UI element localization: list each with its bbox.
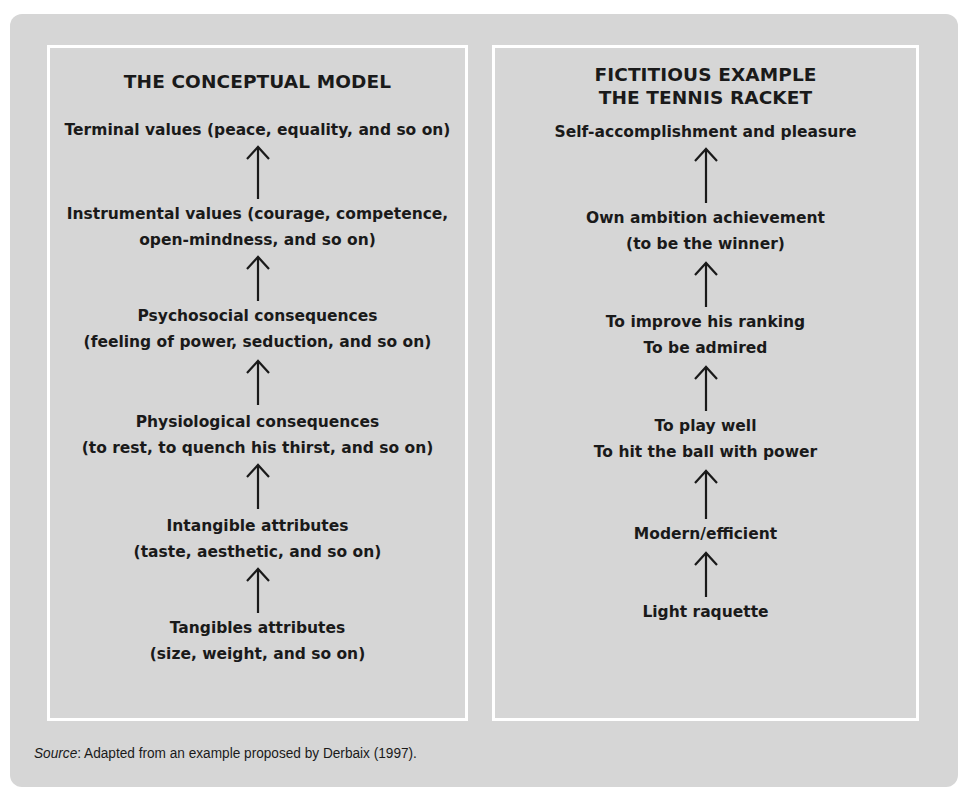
node-instrumental-values: Instrumental values (courage, competence… xyxy=(67,201,449,253)
up-arrow-icon xyxy=(691,361,721,413)
source-text: : Adapted from an example proposed by De… xyxy=(77,744,417,761)
source-label: Source xyxy=(34,744,77,761)
tennis-racket-example-title: FICTITIOUS EXAMPLE THE TENNIS RACKET xyxy=(594,63,816,109)
source-caption: Source: Adapted from an example proposed… xyxy=(34,744,417,762)
conceptual-model-title: THE CONCEPTUAL MODEL xyxy=(124,70,391,93)
up-arrow-icon xyxy=(691,145,721,205)
up-arrow-icon xyxy=(243,461,273,513)
node-self-accomplishment: Self-accomplishment and pleasure xyxy=(555,119,857,145)
figure-panel: THE CONCEPTUAL MODEL Terminal values (pe… xyxy=(10,14,958,787)
tennis-racket-example-box: FICTITIOUS EXAMPLE THE TENNIS RACKET Sel… xyxy=(492,45,919,721)
node-physiological-consequences: Physiological consequences (to rest, to … xyxy=(82,409,434,461)
up-arrow-icon xyxy=(243,253,273,303)
node-modern-efficient: Modern/efficient xyxy=(634,521,777,547)
node-terminal-values: Terminal values (peace, equality, and so… xyxy=(65,117,451,143)
node-tangible-attributes: Tangibles attributes (size, weight, and … xyxy=(150,615,365,667)
up-arrow-icon xyxy=(691,257,721,309)
node-own-ambition: Own ambition achievement (to be the winn… xyxy=(586,205,825,257)
up-arrow-icon xyxy=(243,565,273,615)
up-arrow-icon xyxy=(243,143,273,201)
up-arrow-icon xyxy=(691,465,721,521)
node-intangible-attributes: Intangible attributes (taste, aesthetic,… xyxy=(134,513,382,565)
node-light-raquette: Light raquette xyxy=(642,599,768,625)
node-psychosocial-consequences: Psychosocial consequences (feeling of po… xyxy=(84,303,432,355)
conceptual-model-box: THE CONCEPTUAL MODEL Terminal values (pe… xyxy=(47,45,468,721)
node-improve-ranking: To improve his ranking To be admired xyxy=(606,309,805,361)
up-arrow-icon xyxy=(691,547,721,599)
node-play-well: To play well To hit the ball with power xyxy=(594,413,817,465)
up-arrow-icon xyxy=(243,355,273,409)
